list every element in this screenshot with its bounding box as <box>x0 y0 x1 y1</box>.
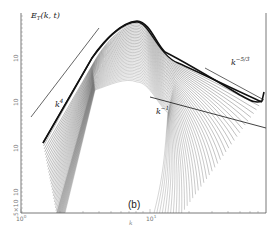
xtick1-exp: 1 <box>154 214 157 219</box>
xtick0-base: 10 <box>16 215 24 222</box>
y-tick-d: 10 <box>12 188 19 196</box>
xtick0-exp: 0 <box>24 214 27 219</box>
plot-area <box>0 0 277 230</box>
y-axis-label: ET(k, t) <box>31 11 60 21</box>
k4-annotation: k4 <box>55 100 63 109</box>
x-tick-10-0: 100 <box>16 215 26 222</box>
spectrum-curve <box>46 31 245 160</box>
spectrum-curve <box>46 30 248 158</box>
x-tick-10-1: 101 <box>146 215 156 222</box>
y-tick-e: 5×10 <box>12 200 19 216</box>
k4-exp: 4 <box>60 98 64 104</box>
k-minus53-reference-line <box>205 68 264 100</box>
y-tick-a: 10 <box>12 54 19 62</box>
k-minus1-annotation: k−1 <box>156 107 169 116</box>
y-tick-b: 10 <box>12 98 19 106</box>
x-axis-label: k <box>129 219 133 226</box>
panel-label: (b) <box>128 199 140 210</box>
spectrum-curve <box>43 22 262 143</box>
spectrum-curve <box>50 40 229 178</box>
y-tick-c: 10 <box>12 144 19 152</box>
spectrum-curves <box>43 21 264 213</box>
km1-exp: −1 <box>161 105 169 111</box>
k-minus53-annotation: k−5/3 <box>231 58 250 67</box>
ylabel-args: (k, t) <box>41 11 60 20</box>
xtick1-base: 10 <box>146 215 154 222</box>
k53-exp: −5/3 <box>236 56 250 62</box>
spectrum-figure: ET(k, t) k4 k−1 k−5/3 (b) k 100 101 10 1… <box>0 0 277 230</box>
